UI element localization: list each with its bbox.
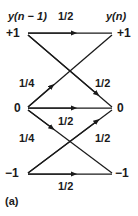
figure-caption: (a) xyxy=(5,196,18,207)
edge-weight-left-lower: 1/4 xyxy=(19,133,34,144)
column-header-current-output: y(n) xyxy=(106,11,126,22)
trellis-diagram-figure: y(n − 1) 1/2 y(n) +1 0 −1 +1 0 −1 1/4 1/… xyxy=(0,0,138,216)
node-left-plus-one: +1 xyxy=(6,27,20,39)
edge-weight-middle: 1/2 xyxy=(58,116,73,127)
edge-weight-bottom: 1/2 xyxy=(58,181,73,192)
node-right-minus-one: −1 xyxy=(115,167,129,179)
node-right-plus-one: +1 xyxy=(117,27,131,39)
edge-weight-left-upper: 1/4 xyxy=(19,78,34,89)
node-right-zero: 0 xyxy=(117,102,124,114)
node-left-minus-one: −1 xyxy=(5,167,19,179)
edge-weight-right-lower: 1/2 xyxy=(95,133,110,144)
edge-weight-top: 1/2 xyxy=(58,11,73,22)
column-header-previous-output: y(n − 1) xyxy=(8,11,47,22)
edge-weight-right-upper: 1/2 xyxy=(95,78,110,89)
node-left-zero: 0 xyxy=(14,102,21,114)
